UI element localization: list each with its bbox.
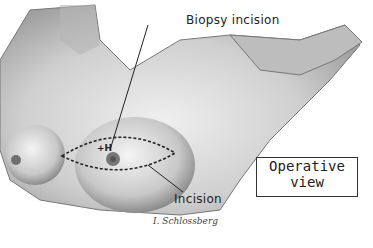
operative-view-box: Operative view (256, 157, 358, 197)
left-nipple (11, 155, 21, 165)
operative-view-line2: view (257, 174, 357, 190)
operative-view-line1: Operative (257, 158, 357, 174)
illustration-canvas: +H Biopsy incision Incision Operative vi… (0, 0, 373, 248)
left-breast (5, 125, 65, 185)
biopsy-incision-label: Biopsy incision (186, 13, 280, 27)
biopsy-mark: +H (97, 143, 112, 153)
anatomy-drawing: +H (0, 0, 373, 248)
artist-signature: I. Schlossberg (153, 216, 218, 226)
incision-label: Incision (174, 192, 222, 206)
